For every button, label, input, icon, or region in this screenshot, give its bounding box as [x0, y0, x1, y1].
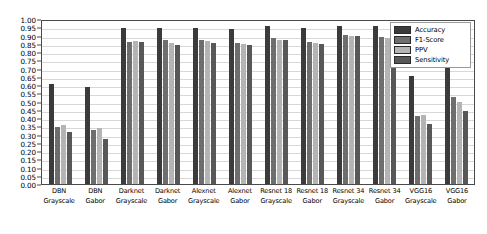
x-axis-label-line2: Gabor	[222, 197, 258, 207]
bar	[61, 125, 66, 184]
legend-label: Accuracy	[415, 26, 445, 34]
x-axis-tick-label: VGG16Grayscale	[403, 187, 439, 227]
bar	[175, 45, 180, 184]
x-axis-label-line1: Resnet 18	[294, 187, 330, 197]
x-axis-tick-label: Resnet 18Gabor	[294, 187, 330, 227]
legend: AccuracyF1-ScorePPVSensitivity	[390, 22, 471, 68]
x-axis-label-line1: VGG16	[403, 187, 439, 197]
legend-label: PPV	[415, 46, 428, 54]
x-axis-label-line1: Resnet 34	[330, 187, 366, 197]
bar	[67, 132, 72, 184]
bar	[265, 26, 270, 184]
x-axis-label-line1: Darknet	[150, 187, 186, 197]
x-axis-label-line2: Grayscale	[330, 197, 366, 207]
bar	[163, 40, 168, 184]
legend-swatch	[394, 26, 411, 34]
bar-group	[78, 21, 114, 184]
bar	[97, 128, 102, 184]
bar	[307, 42, 312, 184]
x-axis-label-line2: Gabor	[77, 197, 113, 207]
bar	[421, 115, 426, 184]
x-axis-label-line2: Grayscale	[258, 197, 294, 207]
x-axis-tick-label: DarknetGrayscale	[113, 187, 149, 227]
bar	[211, 43, 216, 184]
bar	[91, 130, 96, 184]
legend-item[interactable]: F1-Score	[394, 35, 467, 45]
x-axis-tick-label: AlexnetGabor	[222, 187, 258, 227]
bar	[133, 41, 138, 184]
bar	[169, 43, 174, 184]
x-axis-tick-label: VGG16Gabor	[439, 187, 475, 227]
bar	[343, 35, 348, 184]
bar	[241, 44, 246, 184]
bar	[373, 26, 378, 184]
x-axis-label-line1: Alexnet	[222, 187, 258, 197]
x-axis-label-line1: Resnet 34	[367, 187, 403, 197]
bar-chart: 1.000.950.900.850.800.750.700.650.600.55…	[0, 0, 487, 234]
bar	[157, 28, 162, 184]
bar	[445, 65, 450, 184]
bar	[385, 38, 390, 184]
x-axis: DBNGrayscaleDBNGaborDarknetGrayscaleDark…	[41, 187, 475, 227]
x-axis-label-line1: Darknet	[113, 187, 149, 197]
x-axis-label-line2: Grayscale	[186, 197, 222, 207]
x-axis-label-line1: Alexnet	[186, 187, 222, 197]
legend-item[interactable]: Sensitivity	[394, 55, 467, 65]
bar	[235, 43, 240, 184]
x-axis-label-line2: Gabor	[367, 197, 403, 207]
bar	[355, 36, 360, 184]
bar	[85, 87, 90, 184]
bar	[199, 40, 204, 184]
bar	[415, 116, 420, 184]
x-axis-label-line2: Grayscale	[41, 197, 77, 207]
x-axis-tick-label: DBNGrayscale	[41, 187, 77, 227]
bar-group	[114, 21, 150, 184]
bar	[451, 97, 456, 184]
bar-group	[330, 21, 366, 184]
bar	[319, 44, 324, 184]
y-axis-tick-label: 0.00	[20, 181, 36, 190]
bar	[271, 38, 276, 184]
bar	[121, 28, 126, 184]
bar	[49, 84, 54, 184]
bar	[457, 102, 462, 185]
x-axis-label-line1: DBN	[41, 187, 77, 197]
bar	[337, 26, 342, 184]
x-axis-label-line2: Gabor	[439, 197, 475, 207]
bar	[379, 37, 384, 184]
x-axis-label-line2: Grayscale	[113, 197, 149, 207]
bar-group	[294, 21, 330, 184]
bar	[193, 28, 198, 184]
legend-label: Sensitivity	[415, 56, 449, 64]
x-axis-tick-label: DarknetGabor	[150, 187, 186, 227]
bar	[349, 36, 354, 185]
bar	[277, 40, 282, 184]
bar	[247, 45, 252, 184]
legend-swatch	[394, 36, 411, 44]
x-axis-tick-label: AlexnetGrayscale	[186, 187, 222, 227]
bar	[301, 28, 306, 184]
x-axis-label-line1: Resnet 18	[258, 187, 294, 197]
bar-group	[222, 21, 258, 184]
y-axis: 1.000.950.900.850.800.750.700.650.600.55…	[0, 20, 41, 185]
bar	[313, 43, 318, 184]
bar-group	[258, 21, 294, 184]
x-axis-label-line2: Gabor	[294, 197, 330, 207]
x-axis-label-line2: Gabor	[150, 197, 186, 207]
bar	[427, 124, 432, 184]
bar-group	[186, 21, 222, 184]
x-axis-tick-label: Resnet 18Grayscale	[258, 187, 294, 227]
legend-item[interactable]: PPV	[394, 45, 467, 55]
legend-swatch	[394, 46, 411, 54]
bar	[409, 76, 414, 184]
bar	[229, 29, 234, 184]
bar	[139, 42, 144, 184]
legend-label: F1-Score	[415, 36, 444, 44]
x-axis-label-line2: Grayscale	[403, 197, 439, 207]
bar	[103, 139, 108, 184]
x-axis-label-line1: DBN	[77, 187, 113, 197]
bar-group	[42, 21, 78, 184]
bar	[463, 111, 468, 184]
legend-item[interactable]: Accuracy	[394, 25, 467, 35]
bar-group	[150, 21, 186, 184]
